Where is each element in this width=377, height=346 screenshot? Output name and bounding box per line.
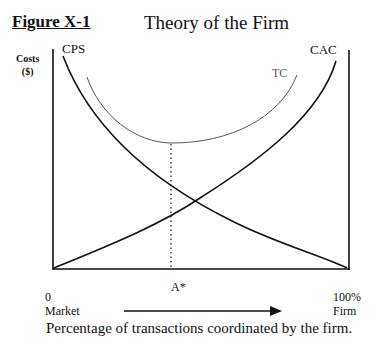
x-axis-zero-label: 0 [45,290,51,305]
cac-label: CAC [310,42,337,58]
cps-curve [63,56,347,268]
cac-curve [54,61,336,268]
x-axis-caption: Percentage of transactions coordinated b… [46,320,352,337]
x-axis-market-label: Market [45,304,80,319]
tc-curve [87,75,297,143]
cps-label: CPS [62,41,85,57]
optimum-marker-label: A* [171,280,186,295]
x-axis-hundred-label: 100% [333,290,361,305]
tc-label: TC [272,66,287,81]
x-axis-firm-label: Firm [333,304,356,319]
arrow-right-icon [270,306,282,316]
